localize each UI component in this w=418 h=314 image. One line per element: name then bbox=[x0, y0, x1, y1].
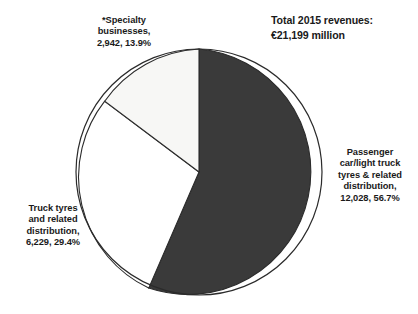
pie-chart-figure: Total 2015 revenues: €21,199 million *Sp… bbox=[0, 0, 418, 314]
pie-label-passenger: Passenger car/light truck tyres & relate… bbox=[324, 147, 416, 204]
pie-label-specialty: *Specialty businesses, 2,942, 13.9% bbox=[80, 15, 168, 49]
pie-label-truck-tyres: Truck tyres and related distribution, 6,… bbox=[11, 203, 95, 249]
chart-title: Total 2015 revenues: €21,199 million bbox=[271, 13, 417, 42]
